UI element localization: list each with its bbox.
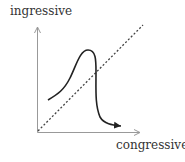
diagonal-line (38, 25, 143, 131)
diagram-canvas (0, 0, 185, 162)
trajectory-curve (48, 50, 121, 126)
